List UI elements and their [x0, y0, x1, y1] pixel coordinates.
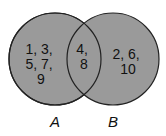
- venn-diagram: 1, 3, 5, 7, 9 4, 8 2, 6, 10 A B: [0, 0, 166, 136]
- set-b-label: B: [108, 113, 118, 130]
- set-a-label: A: [49, 113, 60, 130]
